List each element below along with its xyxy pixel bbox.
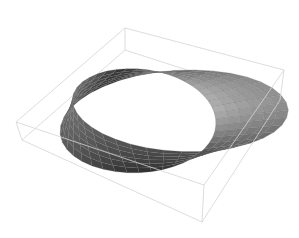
- surface-patch: [149, 160, 163, 164]
- box-edge: [202, 185, 204, 222]
- box-edge: [16, 122, 22, 140]
- watermark: [150, 228, 290, 236]
- surface-patch: [136, 163, 150, 168]
- surface-patch: [164, 150, 182, 154]
- mobius-strip-plot: [0, 0, 299, 238]
- surface-patch: [275, 110, 288, 119]
- surface-patch: [138, 168, 151, 173]
- mobius-surface: [60, 69, 288, 173]
- box-edge: [125, 28, 284, 70]
